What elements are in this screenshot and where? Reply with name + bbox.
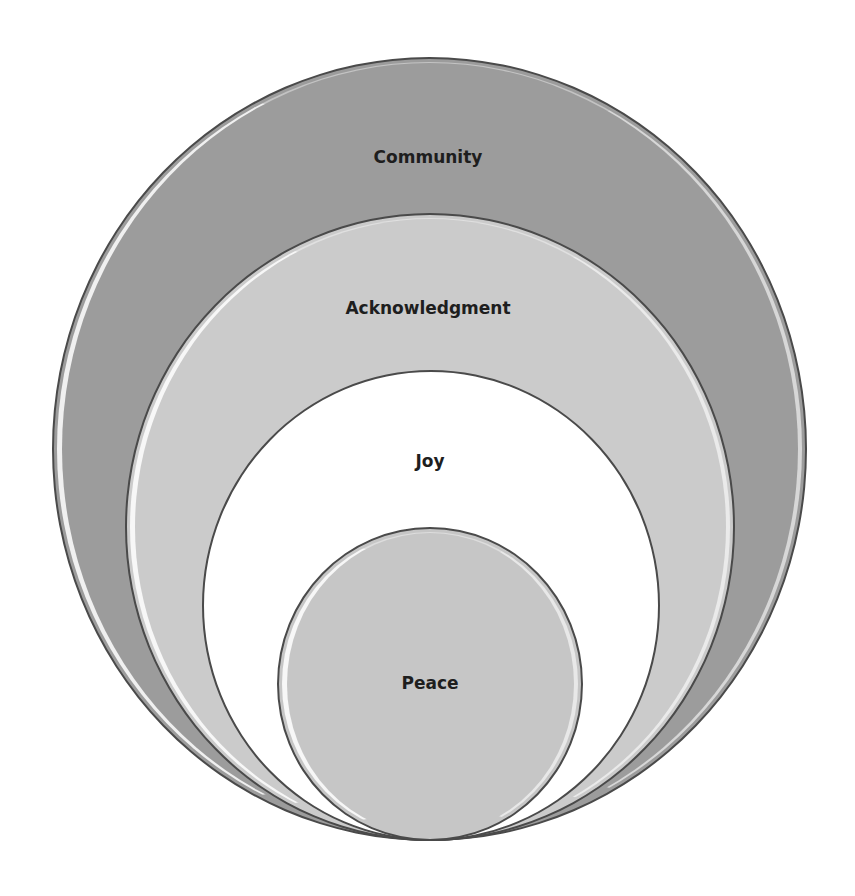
community-label: Community (374, 147, 483, 167)
joy-label: Joy (415, 451, 444, 471)
nested-circles-diagram: Community Acknowledgment Joy Peace (0, 0, 855, 896)
peace-label: Peace (401, 673, 458, 693)
acknowledgment-label: Acknowledgment (345, 298, 510, 318)
